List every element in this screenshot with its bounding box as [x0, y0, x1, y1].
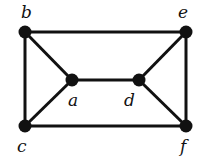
graph-canvas [0, 0, 201, 164]
node-f [180, 120, 193, 133]
graph-edges [25, 32, 186, 126]
node-label-d: d [124, 92, 135, 109]
node-b [19, 26, 32, 39]
edge-a-c [25, 80, 72, 126]
node-e [180, 26, 193, 39]
node-label-f: f [180, 138, 186, 155]
edge-d-f [139, 80, 186, 126]
node-label-e: e [178, 4, 188, 21]
edge-b-a [25, 32, 72, 80]
node-label-a: a [68, 92, 78, 109]
edge-d-e [139, 32, 186, 80]
node-c [19, 120, 32, 133]
node-a [66, 74, 79, 87]
node-d [133, 74, 146, 87]
node-label-b: b [21, 4, 32, 21]
node-label-c: c [17, 138, 27, 155]
